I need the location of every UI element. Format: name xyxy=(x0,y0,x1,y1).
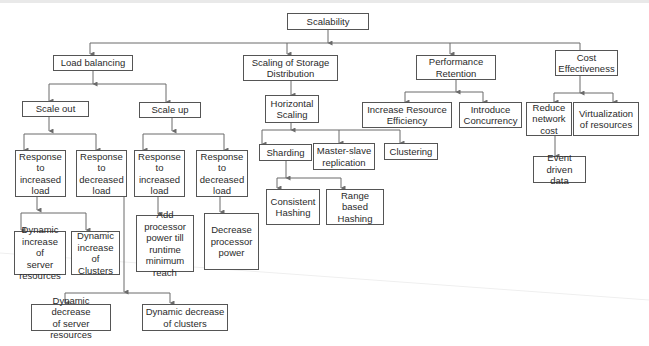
node-scale-up-response-decreased: Response to decreased load xyxy=(196,150,248,197)
node-scale-out-response-decreased: Response to decreased load xyxy=(76,150,127,197)
node-scale-out: Scale out xyxy=(22,101,89,117)
node-performance-retention: Performance Retention xyxy=(416,55,496,80)
scalability-diagram: Scalability Load balancing Scaling of St… xyxy=(0,0,649,346)
node-dynamic-increase-server-resources: Dynamic increase of server resources xyxy=(14,231,66,275)
node-scale-out-response-increased: Response to increased load xyxy=(15,150,66,197)
node-virtualization-of-resources: Virtualization of resources xyxy=(573,102,639,136)
node-increase-resource-efficiency: Increase Resource Efficiency xyxy=(362,102,452,128)
node-scale-up: Scale up xyxy=(139,102,201,118)
node-sharding: Sharding xyxy=(259,144,312,161)
node-dynamic-decrease-clusters: Dynamic decrease of clusters xyxy=(142,304,228,331)
node-scaling-of-storage-distribution: Scaling of Storage Distribution xyxy=(243,55,338,81)
node-scalability: Scalability xyxy=(287,13,369,30)
node-cost-effectiveness: Cost Effectiveness xyxy=(555,50,618,76)
node-add-processor-power: Add processor power till runtime minimum… xyxy=(136,215,194,272)
node-reduce-network-cost: Reduce network cost xyxy=(526,102,572,136)
node-introduce-concurrency: Introduce Concurrency xyxy=(459,102,522,128)
node-load-balancing: Load balancing xyxy=(53,55,133,71)
node-decrease-processor-power: Decrease processor power xyxy=(204,213,259,270)
node-consistent-hashing: Consistent Hashing xyxy=(266,189,320,225)
node-master-slave-replication: Master-slave replication xyxy=(313,143,375,170)
node-range-based-hashing: Range based Hashing xyxy=(326,189,384,225)
node-dynamic-decrease-server-resources: Dynamic decrease of server resources xyxy=(31,304,111,331)
node-scale-up-response-increased: Response to increased load xyxy=(134,150,185,197)
node-clustering: Clustering xyxy=(384,143,438,160)
node-horizontal-scaling: Horizontal Scaling xyxy=(265,95,319,123)
node-dynamic-increase-clusters: Dynamic increase of Clusters xyxy=(71,231,120,275)
node-event-driven-data: Event driven data xyxy=(533,156,586,183)
